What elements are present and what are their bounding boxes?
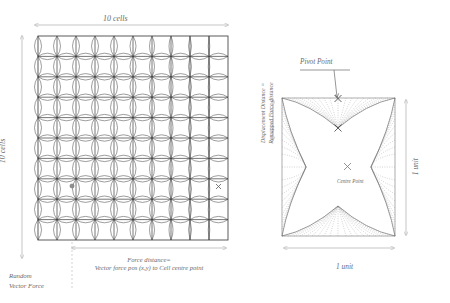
force-distance-line1: Force distance= [74, 256, 224, 264]
centre-point-cross [344, 163, 351, 170]
left-edge-fan [282, 98, 306, 236]
force-distance-line2: Vector force pos (x,y) to Cell centre po… [74, 264, 224, 272]
figure-vector-layer [0, 0, 450, 303]
pivot-leader-line [300, 70, 350, 97]
right-edge-fan [371, 98, 395, 236]
cell-grid-10x10 [35, 36, 229, 240]
displacement-line1: Displacement Distance = [260, 63, 268, 163]
top-edge-fan [282, 98, 395, 128]
unit-width-label: 1 unit [336, 262, 353, 271]
random-vector-force-caption: Random Vector Force [9, 271, 44, 291]
inner-pivot-cross [335, 125, 342, 132]
displacement-line2: Remapped Force distance [268, 63, 276, 163]
random-force-line1: Random [9, 271, 44, 281]
random-vector-force-dot [70, 184, 74, 188]
bottom-edge-fan [282, 206, 395, 236]
unit-height-label: 1 unit [411, 158, 420, 175]
unit-cell-distortion-diagram [282, 70, 406, 248]
force-distance-caption: Force distance= Vector force pos (x,y) t… [74, 256, 224, 272]
displacement-distance-caption: Displacement Distance = Remapped Force d… [260, 63, 276, 163]
top-width-label: 10 cells [103, 14, 128, 24]
centre-point-label: Centre Point [337, 178, 363, 185]
pivot-point-label: Pivot Point [300, 58, 333, 67]
left-height-label: 10 cells [0, 139, 8, 164]
random-force-line2: Vector Force [9, 281, 44, 291]
figure-canvas: 10 cells 10 cells Force distance= Vector… [0, 0, 450, 303]
